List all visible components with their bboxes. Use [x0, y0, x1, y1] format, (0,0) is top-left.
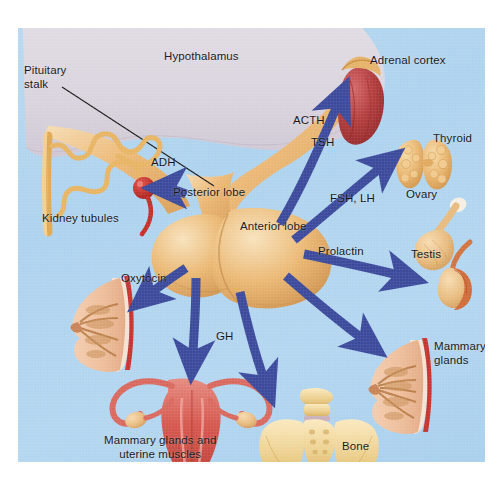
- hormone-arrow-layer: [18, 28, 485, 462]
- label-posterior-lobe: Posterior lobe: [173, 186, 245, 200]
- arrow-to-uterus: [192, 278, 196, 366]
- label-testis: Testis: [411, 248, 441, 262]
- label-adrenal-cortex: Adrenal cortex: [370, 54, 446, 68]
- label-hormone-adh: ADH: [151, 156, 176, 170]
- label-anterior-lobe: Anterior lobe: [240, 220, 307, 234]
- label-ovary: Ovary: [406, 188, 437, 202]
- label-bone: Bone: [342, 440, 369, 454]
- label-mammary-uterine: Mammary glands and uterine muscles: [104, 434, 216, 461]
- arrow-prolactin: [286, 276, 372, 346]
- arrow-gh: [240, 292, 268, 390]
- label-hormone-prolactin: Prolactin: [318, 245, 364, 259]
- diagram-canvas: Hypothalamus Pituitary stalk Posterior l…: [18, 28, 485, 462]
- label-hypothalamus: Hypothalamus: [164, 50, 239, 64]
- label-hormone-acth: ACTH: [293, 114, 325, 128]
- label-hormone-gh: GH: [216, 330, 233, 344]
- label-hormone-tsh: TSH: [311, 136, 334, 150]
- label-thyroid: Thyroid: [433, 132, 472, 146]
- label-pituitary-stalk: Pituitary stalk: [24, 64, 66, 91]
- label-mammary-glands: Mammary glands: [434, 340, 485, 367]
- label-hormone-oxytocin: Oxytocin: [121, 272, 167, 286]
- label-kidney-tubules: Kidney tubules: [42, 212, 119, 226]
- label-hormone-fsh-lh: FSH, LH: [330, 192, 375, 206]
